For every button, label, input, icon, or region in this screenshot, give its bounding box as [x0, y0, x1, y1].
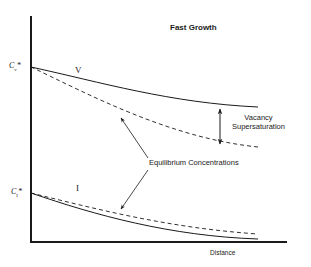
diagram-canvas: Fast Growth Cv* CI* V I Vacancy Supersat…: [0, 0, 311, 267]
y-label-interstitial-sup: *: [18, 187, 22, 196]
interstitial-concentration-curve: [31, 193, 258, 239]
x-axis-label: Distance: [210, 249, 235, 256]
equilibrium-arrow-vacancy: [121, 118, 148, 158]
interstitial-curve-label: I: [76, 183, 79, 193]
interstitial-equilibrium-curve: [31, 193, 258, 234]
diagram-graphics: [0, 0, 311, 267]
y-label-interstitial: CI*: [11, 187, 22, 198]
y-label-vacancy-sup: *: [17, 61, 21, 70]
supersaturation-label-line1: Vacancy: [232, 113, 285, 122]
vacancy-curve-label: V: [75, 65, 82, 75]
supersaturation-label-line2: Supersaturation: [232, 122, 285, 131]
equilibrium-arrow-interstitial: [121, 170, 148, 209]
vacancy-equilibrium-curve: [31, 67, 258, 147]
equilibrium-label: Equilibrium Concentrations: [149, 158, 239, 167]
vacancy-concentration-curve: [31, 67, 258, 107]
supersaturation-label: Vacancy Supersaturation: [232, 113, 285, 131]
y-label-vacancy: Cv*: [9, 61, 21, 72]
diagram-title: Fast Growth: [170, 23, 217, 32]
